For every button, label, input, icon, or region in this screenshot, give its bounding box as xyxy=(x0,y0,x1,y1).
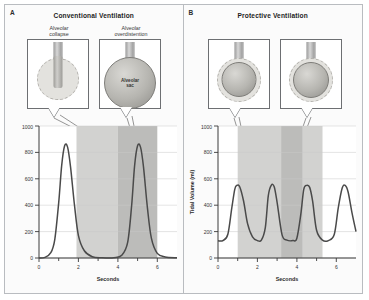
callout-label-alveolar-overdistention: Alveolaroverdistention xyxy=(94,25,168,38)
y-tick-600: 600 xyxy=(25,176,34,182)
callout-group-b xyxy=(184,25,363,120)
x-axis-title: Seconds xyxy=(275,276,297,282)
shade-band-light xyxy=(237,126,280,258)
x-tick-6: 6 xyxy=(334,264,337,270)
panel-title-b: Protective Ventilation xyxy=(184,12,363,19)
panel-protective-ventilation: B Protective Ventilation xyxy=(184,5,363,293)
callout-alveolus-left xyxy=(208,39,270,109)
callout-tail xyxy=(120,107,132,117)
alveolus-overdistended-illustration: Alveolarsac xyxy=(100,40,160,108)
x-tick-4: 4 xyxy=(117,264,120,270)
figure-container: A Conventional Ventilation Alveolarcolla… xyxy=(4,4,363,294)
y-tick-800: 800 xyxy=(203,149,212,155)
chart-conventional-ventilation: 0 200 400 600 800 1000 0 2 4 xyxy=(5,118,183,293)
panel-title-a: Conventional Ventilation xyxy=(5,12,183,19)
y-tick-200: 200 xyxy=(25,229,34,235)
x-tick-0: 0 xyxy=(216,264,219,270)
alveolar-sac-label: Alveolarsac xyxy=(105,78,155,89)
y-tick-800: 800 xyxy=(25,149,34,155)
chart-protective-ventilation: 0 200 400 600 800 1000 0 2 4 6 xyxy=(184,118,363,293)
x-tick-4: 4 xyxy=(295,264,298,270)
x-tick-6: 6 xyxy=(156,264,159,270)
alveolus-protective-illustration xyxy=(209,40,269,108)
callout-alveolar-collapse: Alveolarcollapse xyxy=(27,39,89,109)
x-tick-2: 2 xyxy=(256,264,259,270)
y-tick-0: 0 xyxy=(209,255,212,261)
y-tick-200: 200 xyxy=(203,229,212,235)
callout-group-a: Alveolarcollapse Alveolaroverdistention … xyxy=(5,25,183,120)
shade-band-dark xyxy=(281,126,303,258)
panel-conventional-ventilation: A Conventional Ventilation Alveolarcolla… xyxy=(5,5,184,293)
callout-tail xyxy=(48,107,60,117)
callout-tail xyxy=(229,107,241,117)
y-axis-title: Tidal Volume (ml) xyxy=(189,170,195,215)
alveolus-protective-illustration xyxy=(281,40,341,108)
callout-label-alveolar-collapse: Alveolarcollapse xyxy=(22,25,96,38)
collapsed-airway-icon xyxy=(54,56,63,88)
x-tick-0: 0 xyxy=(38,264,41,270)
y-tick-1000: 1000 xyxy=(200,124,211,130)
y-tick-1000: 1000 xyxy=(22,124,33,130)
shade-band-light xyxy=(77,126,118,258)
y-tick-600: 600 xyxy=(203,176,212,182)
y-tick-400: 400 xyxy=(203,202,212,208)
x-tick-2: 2 xyxy=(77,264,80,270)
alveolus-collapsed-illustration xyxy=(28,40,88,108)
alveolar-sac-shape: Alveolarsac xyxy=(104,57,156,109)
alveolar-sac-shape xyxy=(221,62,256,97)
callout-tail xyxy=(301,107,313,117)
y-tick-400: 400 xyxy=(25,202,34,208)
callout-alveolar-overdistention: Alveolaroverdistention Alveolarsac xyxy=(99,39,161,109)
y-tick-0: 0 xyxy=(30,255,33,261)
alveolar-sac-shape xyxy=(293,62,329,98)
callout-alveolus-right xyxy=(280,39,342,109)
x-axis-title: Seconds xyxy=(97,276,119,282)
